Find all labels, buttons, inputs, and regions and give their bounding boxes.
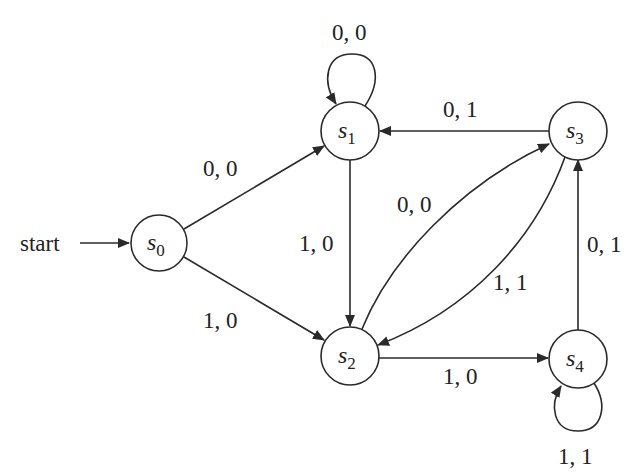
edge-s4-loop (554, 383, 601, 431)
state-s3: s3 (549, 102, 607, 160)
edge-label-s2-s4: 1, 0 (443, 364, 478, 389)
edge-label-s3-s2: 1, 1 (493, 270, 528, 295)
edge-label-s0-s2: 1, 0 (203, 308, 238, 333)
edge-label-s4-loop: 1, 1 (558, 444, 593, 469)
edge-label-s1-loop: 0, 0 (332, 20, 367, 45)
edge-label-s2-s3: 0, 0 (397, 192, 432, 217)
start-label: start (20, 231, 60, 256)
edge-s2-s3 (362, 144, 549, 329)
state-s1: s1 (321, 102, 379, 160)
state-diagram: start 0, 0 1, 0 0, 0 1, 0 0, 0 1, 1 0, 1… (0, 0, 643, 476)
state-s0: s0 (131, 215, 187, 271)
state-s2: s2 (321, 327, 379, 385)
edge-label-s0-s1: 0, 0 (203, 156, 238, 181)
edge-s3-s2 (378, 157, 565, 345)
edge-label-s3-s1: 0, 1 (443, 97, 478, 122)
state-s4: s4 (549, 330, 607, 388)
edge-label-s4-s3: 0, 1 (587, 232, 622, 257)
edge-label-s1-s2: 1, 0 (299, 231, 334, 256)
edge-s1-loop (328, 54, 375, 106)
